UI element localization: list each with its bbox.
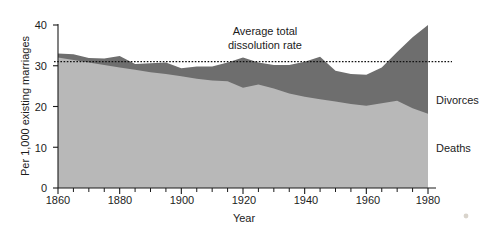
x-tick-label-1960: 1960	[356, 194, 380, 206]
x-tick-label-1900: 1900	[170, 194, 194, 206]
y-tick-label-10: 10	[35, 142, 47, 154]
x-tick-label-1880: 1880	[108, 194, 132, 206]
x-tick-label-1940: 1940	[294, 194, 318, 206]
y-tick-label-20: 20	[35, 101, 47, 113]
y-tick-label-0: 0	[41, 182, 47, 194]
annotation-line-2: dissolution rate	[228, 39, 302, 51]
series-label-divorces: Divorces	[436, 94, 479, 106]
y-tick-label-40: 40	[35, 19, 47, 31]
annotation-line-1: Average total	[233, 25, 298, 37]
area-chart: 40 30 20 10 0 1860 1880 1900 1920 1940 1…	[0, 0, 488, 236]
x-tick-label-1860: 1860	[46, 194, 70, 206]
series-label-deaths: Deaths	[436, 142, 471, 154]
x-axis-title: Year	[233, 212, 256, 224]
y-axis-title: Per 1,000 existing marriages	[19, 35, 31, 176]
x-tick-label-1920: 1920	[232, 194, 256, 206]
x-tick-label-1980: 1980	[416, 194, 440, 206]
paper-speck	[464, 214, 469, 219]
y-tick-label-30: 30	[35, 60, 47, 72]
chart-figure: 40 30 20 10 0 1860 1880 1900 1920 1940 1…	[0, 0, 488, 236]
